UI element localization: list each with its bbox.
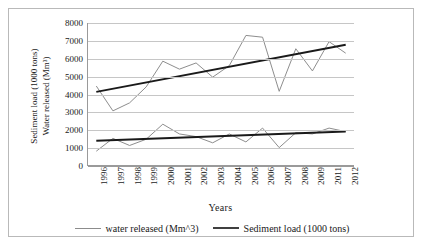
y-axis-tick-label: 1000 xyxy=(65,143,83,153)
y-axis-tick-label: 4000 xyxy=(65,90,83,100)
x-axis-tick-label: 2011 xyxy=(333,167,345,201)
gridline xyxy=(88,41,354,42)
x-axis-tick-label: 2000 xyxy=(166,167,178,201)
x-axis-tick-label: 1996 xyxy=(99,167,111,201)
y-axis-tick-label: 6000 xyxy=(65,54,83,64)
gridline xyxy=(88,59,354,60)
y-axis-tick-label: 0 xyxy=(79,161,84,171)
y-axis-tick-label: 5000 xyxy=(65,72,83,82)
x-axis-tick-label: 2003 xyxy=(216,167,228,201)
y-axis-tick-label: 8000 xyxy=(65,18,83,28)
gridline xyxy=(88,95,354,96)
legend-line-icon xyxy=(213,227,239,229)
series-line xyxy=(96,35,345,110)
gridline xyxy=(88,148,354,149)
sediment-load-trendline xyxy=(96,131,345,140)
legend-label: water released (Mm^3) xyxy=(106,223,199,234)
series-line xyxy=(96,124,345,151)
plot-area xyxy=(87,23,354,166)
x-axis-tick-label: 2002 xyxy=(199,167,211,201)
x-axis-tick-label: 2012 xyxy=(350,167,362,201)
gridline xyxy=(88,77,354,78)
y-axis-tick-label: 2000 xyxy=(65,125,83,135)
x-axis-tick-label: 2001 xyxy=(183,167,195,201)
gridline xyxy=(88,23,354,24)
y-axis-tick-labels: 800070006000500040003000200010000 xyxy=(49,17,85,177)
x-axis-tick-label: 1998 xyxy=(133,167,145,201)
y-axis-tick-label: 3000 xyxy=(65,107,83,117)
x-axis-tick-label: 1999 xyxy=(149,167,161,201)
y-axis-title: Sediment load (1000 tons) Water released… xyxy=(17,21,51,171)
x-axis-tick-label: 2009 xyxy=(316,167,328,201)
chart-figure: Sediment load (1000 tons) Water released… xyxy=(8,8,414,237)
x-axis-tick-labels: 1996199719981999200020012002200320042005… xyxy=(87,167,354,201)
legend-label: Sediment load (1000 tons) xyxy=(244,223,350,234)
x-axis-title: Years xyxy=(87,202,354,213)
x-axis-tick-label: 2007 xyxy=(283,167,295,201)
legend-line-icon xyxy=(75,228,101,229)
water-released-trendline xyxy=(96,45,345,92)
x-axis-tick-label: 2005 xyxy=(250,167,262,201)
x-axis-tick-label: 2004 xyxy=(233,167,245,201)
gridline xyxy=(88,112,354,113)
chart-legend: water released (Mm^3)Sediment load (1000… xyxy=(29,220,395,236)
y-axis-tick-label: 7000 xyxy=(65,36,83,46)
x-axis-tick-label: 2008 xyxy=(300,167,312,201)
legend-item: water released (Mm^3) xyxy=(75,223,199,234)
x-axis-tick-label: 1997 xyxy=(116,167,128,201)
x-axis-tick-label: 2006 xyxy=(266,167,278,201)
legend-item: Sediment load (1000 tons) xyxy=(213,223,350,234)
gridline xyxy=(88,130,354,131)
